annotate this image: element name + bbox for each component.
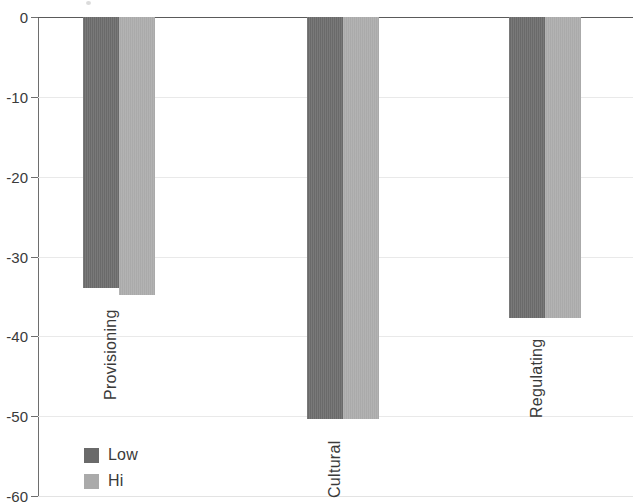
y-tick-label-6: -60 [0, 488, 28, 504]
legend: Low Hi [84, 442, 138, 494]
artifact-speck [86, 1, 91, 5]
category-label-regulating: Regulating [528, 339, 546, 419]
legend-swatch-hi-icon [84, 474, 99, 489]
bar-texture [119, 17, 155, 295]
bar-texture [343, 17, 379, 419]
legend-item-hi[interactable]: Hi [84, 468, 138, 494]
bar-texture [83, 17, 119, 288]
bar-texture [545, 17, 581, 318]
bar-regulating-hi[interactable] [545, 17, 581, 318]
category-label-provisioning: Provisioning [102, 309, 120, 400]
bar-provisioning-low[interactable] [83, 17, 119, 288]
bar-cultural-low[interactable] [307, 17, 343, 419]
legend-item-low[interactable]: Low [84, 442, 138, 468]
bars-layer [38, 17, 633, 496]
legend-label-low: Low [108, 446, 138, 464]
bar-cultural-hi[interactable] [343, 17, 379, 419]
bar-regulating-low[interactable] [509, 17, 545, 318]
category-label-cultural: Cultural [326, 440, 344, 498]
bar-texture [307, 17, 343, 419]
y-tick-label-3: -30 [0, 248, 28, 265]
bar-provisioning-hi[interactable] [119, 17, 155, 295]
legend-swatch-low-icon [84, 448, 99, 463]
y-tick-label-2: -20 [0, 168, 28, 185]
y-tick-label-1: -10 [0, 88, 28, 105]
y-tick-label-4: -40 [0, 328, 28, 345]
y-tick-label-5: -50 [0, 408, 28, 425]
legend-label-hi: Hi [108, 472, 124, 490]
y-tick-label-0: 0 [0, 9, 28, 26]
bar-texture [509, 17, 545, 318]
bar-chart: 0-10-20-30-40-50-60 ProvisioningCultural… [0, 0, 633, 504]
